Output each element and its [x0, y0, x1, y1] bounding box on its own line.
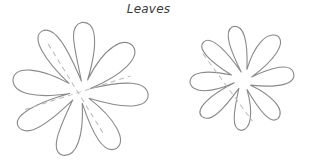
- leaves-diagram: [0, 0, 313, 163]
- small-flower-outline: [185, 21, 299, 135]
- large-flower-shape: [3, 14, 157, 163]
- large-flower-outline: [3, 14, 157, 163]
- small-flower-shape: [185, 21, 299, 135]
